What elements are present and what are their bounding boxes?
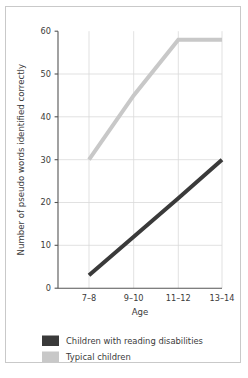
x-axis-title: Age [132,307,149,317]
x-tick-label-7-8: 7–8 [82,293,97,303]
y-tick-label-0: 0 [46,283,51,293]
x-tick-label-11-12: 11–12 [166,293,191,303]
figure-container: 60 50 40 30 20 10 0 7–8 9–10 11–12 13–14… [5,6,241,363]
legend-label-reading-disabilities: Children with reading disabilities [66,336,203,346]
x-tick-label-9-10: 9–10 [124,293,144,303]
legend: Children with reading disabilities Typic… [42,336,203,363]
y-tick-label-30: 30 [41,155,51,165]
series-line-reading-disabilities [89,160,222,276]
x-tick-label-13-14: 13–14 [210,293,235,303]
legend-swatch-typical-children [42,352,59,363]
y-tick-label-20: 20 [41,197,51,207]
legend-label-typical-children: Typical children [65,352,131,362]
line-chart-svg: 60 50 40 30 20 10 0 7–8 9–10 11–12 13–14… [6,7,242,364]
chart-area: 60 50 40 30 20 10 0 7–8 9–10 11–12 13–14… [6,7,242,364]
series-line-typical-children [89,40,222,160]
legend-swatch-reading-disabilities [42,336,59,347]
y-axis-title: Number of pseudo words identified correc… [16,64,26,256]
y-tick-label-10: 10 [41,240,51,250]
y-tick-label-60: 60 [41,26,51,36]
y-tick-label-50: 50 [41,69,51,79]
x-tick-labels: 7–8 9–10 11–12 13–14 [82,293,235,303]
horizontal-gridlines [58,74,222,245]
y-tick-label-40: 40 [41,112,51,122]
y-tick-labels: 60 50 40 30 20 10 0 [41,26,51,293]
